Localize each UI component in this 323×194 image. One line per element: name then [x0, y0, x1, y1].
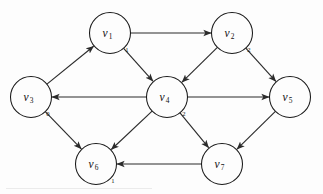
weight-label-v6: 1	[111, 177, 114, 184]
weight-label-v3: 0	[46, 110, 50, 117]
graph-node-v1[interactable]: v1	[90, 13, 131, 54]
graph-node-v3[interactable]: v3	[11, 77, 52, 118]
graph-edge	[180, 113, 209, 148]
graph-figure: v1v2v3v4v5v6v7 12021	[0, 0, 323, 194]
weight-label-v2: 2	[247, 46, 250, 53]
node-subscript-v7: 7	[221, 163, 225, 172]
graph-edge	[237, 111, 275, 149]
graph-node-v6[interactable]: v6	[76, 144, 117, 185]
graph-node-v4[interactable]: v4	[147, 77, 188, 118]
node-subscript-v6: 6	[95, 163, 99, 172]
node-subscript-v5: 5	[289, 96, 293, 105]
graph-edge	[111, 111, 152, 149]
directed-graph-canvas: v1v2v3v4v5v6v7 12021	[0, 0, 323, 194]
nodes-layer: v1v2v3v4v5v6v7	[11, 13, 311, 185]
node-subscript-v3: 3	[30, 96, 34, 105]
graph-edge	[182, 47, 217, 82]
graph-node-v2[interactable]: v2	[212, 13, 253, 54]
graph-edge	[47, 46, 94, 84]
graph-node-v7[interactable]: v7	[202, 144, 243, 185]
graph-edge	[124, 48, 153, 81]
node-subscript-v2: 2	[231, 32, 235, 41]
weight-label-v1: 1	[125, 46, 128, 53]
node-subscript-v1: 1	[109, 32, 113, 41]
graph-edge	[246, 48, 276, 81]
graph-node-v5[interactable]: v5	[270, 77, 311, 118]
graph-edge	[45, 112, 81, 149]
scan-artifact	[6, 188, 152, 189]
weight-label-v4: 2	[182, 110, 185, 117]
node-subscript-v4: 4	[166, 96, 170, 105]
